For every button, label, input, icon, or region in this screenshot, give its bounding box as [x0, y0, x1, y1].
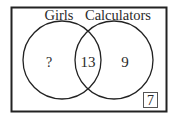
outside-value: 7 [147, 93, 154, 108]
set-label-girls: Girls [45, 7, 74, 23]
set-label-calculators: Calculators [85, 7, 151, 23]
calculators-only-value: 9 [121, 54, 129, 70]
intersection-value: 13 [81, 54, 96, 70]
girls-only-value: ? [46, 55, 52, 70]
venn-diagram: Girls Calculators ? 13 9 7 [0, 0, 175, 119]
